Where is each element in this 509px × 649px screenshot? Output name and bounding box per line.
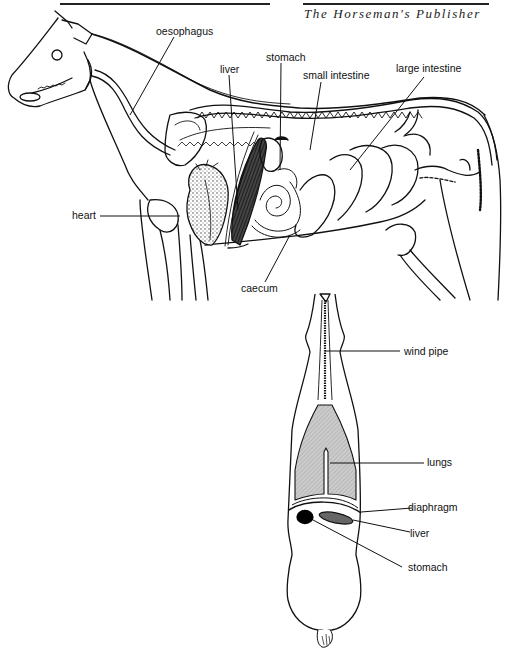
label-small-intestine: small intestine — [303, 70, 370, 81]
label-heart: heart — [72, 210, 96, 221]
label-caecum: caecum — [241, 283, 278, 294]
horse-side-view — [8, 11, 500, 300]
label-stomach-top: stomach — [408, 562, 448, 573]
label-liver-top: liver — [410, 528, 429, 539]
label-diaphragm: diaphragm — [408, 502, 458, 513]
label-wind-pipe: wind pipe — [404, 346, 448, 357]
label-lungs: lungs — [427, 457, 452, 468]
horse-top-view — [287, 294, 361, 647]
label-large-intestine: large intestine — [396, 63, 461, 74]
label-stomach-side: stomach — [266, 52, 306, 63]
horse-anatomy-illustration — [0, 0, 509, 649]
label-liver-side: liver — [220, 64, 239, 75]
label-oesophagus: oesophagus — [156, 26, 213, 37]
